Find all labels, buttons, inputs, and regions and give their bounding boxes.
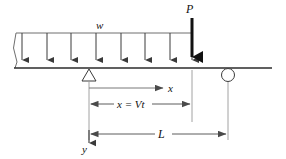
pin-support [82, 69, 96, 81]
x-axis-label: x [168, 83, 173, 94]
beam-diagram: w P x x = Vt L y [0, 0, 286, 159]
load-left-break-line [14, 33, 18, 68]
point-load-label: P [186, 3, 193, 15]
x-dimension-label: x = Vt [117, 99, 145, 110]
roller-support-circle [222, 69, 235, 82]
distributed-load-label: w [96, 20, 103, 31]
beam-diagram-canvas [0, 0, 286, 159]
pin-support-triangle [82, 69, 96, 81]
span-length-label: L [158, 128, 165, 140]
y-axis-label: y [82, 144, 87, 155]
distributed-load-group [14, 33, 193, 68]
roller-support [222, 69, 235, 82]
